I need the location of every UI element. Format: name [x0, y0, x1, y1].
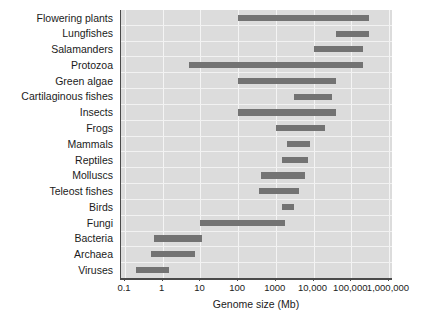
category-axis-labels: Flowering plantsLungfishesSalamandersPro… — [0, 10, 117, 278]
x-tick-label: 0.1 — [117, 283, 130, 293]
bar-row — [121, 120, 392, 136]
bar-row — [121, 73, 392, 89]
x-tick-mark — [124, 278, 125, 281]
range-bar — [259, 188, 299, 194]
bar-row — [121, 26, 392, 42]
category-label: Frogs — [0, 120, 117, 136]
range-bar — [154, 235, 202, 241]
range-bar — [294, 94, 332, 100]
category-label: Green algae — [0, 73, 117, 89]
x-tick-mark — [199, 278, 200, 281]
x-tick-label: 1000 — [264, 283, 285, 293]
bar-row — [121, 10, 392, 26]
range-bar — [136, 267, 169, 273]
bar-row — [121, 105, 392, 121]
range-bar — [287, 141, 310, 147]
bars-layer — [121, 10, 392, 278]
bar-row — [121, 262, 392, 278]
category-label: Teleost fishes — [0, 183, 117, 199]
bar-row — [121, 57, 392, 73]
range-bar — [282, 157, 307, 163]
category-label: Salamanders — [0, 42, 117, 58]
range-bar — [189, 62, 363, 68]
x-tick-label: 100,000 — [333, 283, 367, 293]
category-label: Flowering plants — [0, 10, 117, 26]
x-tick-mark — [162, 278, 163, 281]
range-bar — [200, 220, 284, 226]
x-tick-mark — [350, 278, 351, 281]
category-label: Archaea — [0, 246, 117, 262]
bar-row — [121, 183, 392, 199]
range-bar — [336, 31, 369, 37]
plot-area — [120, 10, 392, 278]
range-bar — [238, 15, 369, 21]
genome-size-range-chart: Flowering plantsLungfishesSalamandersPro… — [0, 0, 421, 325]
x-tick-mark — [275, 278, 276, 281]
category-label: Cartilaginous fishes — [0, 89, 117, 105]
category-label: Mammals — [0, 136, 117, 152]
x-tick-label: 10,000 — [298, 283, 327, 293]
range-bar — [238, 109, 336, 115]
range-bar — [314, 46, 363, 52]
x-axis-title: Genome size (Mb) — [120, 299, 392, 310]
x-tick-label: 10 — [194, 283, 205, 293]
category-label: Bacteria — [0, 231, 117, 247]
category-label: Molluscs — [0, 168, 117, 184]
x-tick-label: 1,000,000 — [367, 283, 409, 293]
bar-row — [121, 246, 392, 262]
category-label: Reptiles — [0, 152, 117, 168]
bar-row — [121, 199, 392, 215]
x-tick-label: 1 — [159, 283, 164, 293]
category-label: Birds — [0, 199, 117, 215]
category-label: Viruses — [0, 262, 117, 278]
category-label: Lungfishes — [0, 26, 117, 42]
bar-row — [121, 168, 392, 184]
x-tick-mark — [237, 278, 238, 281]
range-bar — [238, 78, 336, 84]
bar-row — [121, 89, 392, 105]
category-label: Fungi — [0, 215, 117, 231]
x-tick-mark — [388, 278, 389, 281]
x-tick-label: 100 — [229, 283, 245, 293]
range-bar — [282, 204, 293, 210]
range-bar — [276, 125, 325, 131]
bar-row — [121, 136, 392, 152]
range-bar — [151, 251, 194, 257]
bar-row — [121, 231, 392, 247]
bar-row — [121, 152, 392, 168]
bar-row — [121, 215, 392, 231]
category-label: Insects — [0, 105, 117, 121]
category-label: Protozoa — [0, 57, 117, 73]
range-bar — [261, 172, 305, 178]
x-tick-mark — [313, 278, 314, 281]
bar-row — [121, 42, 392, 58]
